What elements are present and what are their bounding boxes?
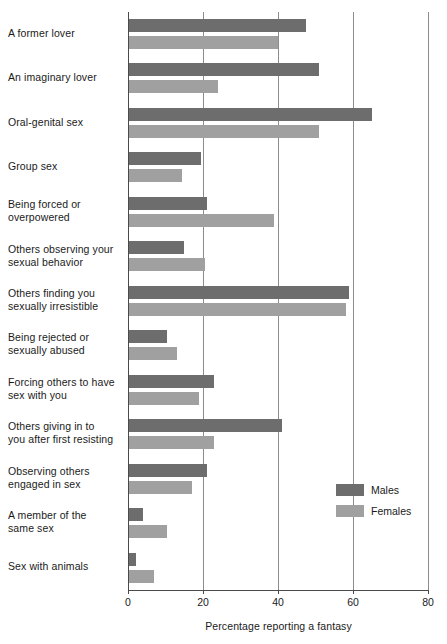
x-axis-title: Percentage reporting a fantasy [128,620,429,632]
bar-males [128,63,319,76]
bar-group [128,197,428,234]
category-label: Others giving in toyou after first resis… [8,420,120,446]
bar-males [128,241,184,254]
category-label-line: same sex [8,522,120,535]
bar-group [128,375,428,412]
legend-swatch [336,505,364,517]
bar-males [128,553,136,566]
chart-legend: MalesFemales [336,481,411,523]
x-tick-label: 80 [422,596,434,608]
category-label-line: Observing others [8,465,120,478]
category-label-line: you after first resisting [8,433,120,446]
category-label: Others observing yoursexual behavior [8,243,120,269]
bar-females [128,347,177,360]
category-label-line: sexual behavior [8,256,120,269]
x-tick-label: 60 [347,596,359,608]
x-tick-mark [128,590,129,594]
category-label: Observing othersengaged in sex [8,465,120,491]
legend-item: Females [336,502,411,520]
legend-label: Males [371,484,399,496]
bar-females [128,80,218,93]
category-label: Oral-genital sex [8,116,120,129]
bar-males [128,375,214,388]
category-label-line: engaged in sex [8,478,120,491]
bar-females [128,303,346,316]
legend-swatch [336,484,364,496]
category-label-line: Others giving in to [8,420,120,433]
category-label: Group sex [8,160,120,173]
category-label-line: Others observing your [8,243,120,256]
category-label: Sex with animals [8,560,120,573]
x-tick-mark [203,590,204,594]
category-label-line: sex with you [8,389,120,402]
category-label-line: Others finding you [8,287,120,300]
bar-group [128,241,428,278]
category-label: Others finding yousexually irresistible [8,287,120,313]
bar-males [128,330,167,343]
gridline-80 [428,12,429,590]
category-label-line: Oral-genital sex [8,116,120,129]
x-tick-mark [353,590,354,594]
bar-group [128,152,428,189]
bar-females [128,525,167,538]
bar-females [128,125,319,138]
bar-group [128,553,428,590]
category-label-line: sexually abused [8,344,120,357]
category-label: Being forced oroverpowered [8,198,120,224]
x-tick-label: 0 [125,596,131,608]
category-axis-labels: A former loverAn imaginary loverOral-gen… [0,12,120,590]
category-label-line: Sex with animals [8,560,120,573]
x-tick-mark [278,590,279,594]
x-tick-mark [428,590,429,594]
x-axis-ticks: 020406080 [128,590,429,614]
category-label-line: An imaginary lover [8,71,120,84]
bar-females [128,570,154,583]
bar-group [128,63,428,100]
category-label-line: Being forced or [8,198,120,211]
category-label-line: sexually irresistible [8,300,120,313]
category-label: Being rejected orsexually abused [8,331,120,357]
x-tick-label: 40 [272,596,284,608]
category-label-line: A member of the [8,509,120,522]
bar-males [128,152,201,165]
bar-males [128,108,372,121]
category-label: A member of thesame sex [8,509,120,535]
x-tick-label: 20 [197,596,209,608]
category-label: An imaginary lover [8,71,120,84]
category-label: A former lover [8,27,120,40]
bar-group [128,286,428,323]
category-label-line: A former lover [8,27,120,40]
bar-females [128,36,278,49]
category-label-line: overpowered [8,211,120,224]
bar-males [128,464,207,477]
bar-males [128,508,143,521]
bar-group [128,419,428,456]
y-axis-line [128,12,129,591]
bar-males [128,197,207,210]
bar-females [128,169,182,182]
bar-females [128,214,274,227]
legend-item: Males [336,481,411,499]
bar-males [128,286,349,299]
bar-group [128,108,428,145]
category-label-line: Group sex [8,160,120,173]
category-label: Forcing others to havesex with you [8,376,120,402]
bar-males [128,419,282,432]
bar-males [128,19,306,32]
bar-females [128,392,199,405]
bar-females [128,481,192,494]
bar-group [128,330,428,367]
category-label-line: Forcing others to have [8,376,120,389]
legend-label: Females [371,505,411,517]
category-label-line: Being rejected or [8,331,120,344]
bar-females [128,258,205,271]
bar-females [128,436,214,449]
bar-group [128,19,428,56]
grouped-bar-chart: A former loverAn imaginary loverOral-gen… [0,0,447,644]
